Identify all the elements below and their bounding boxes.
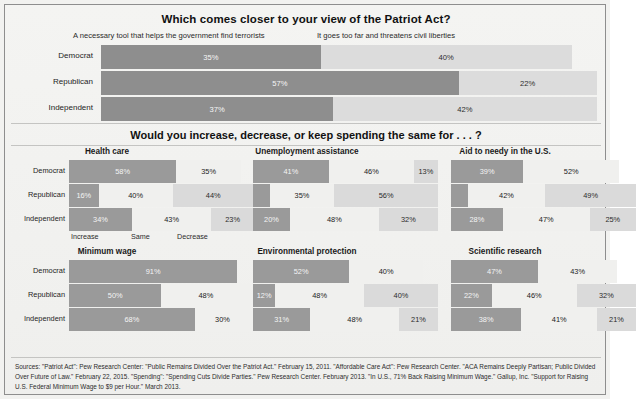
panel-bar-segment-increase: 39% xyxy=(451,160,523,183)
panel-row-label: Democrat xyxy=(9,166,65,175)
panel-bar-segment-increase: 16% xyxy=(69,184,99,207)
panel-row-bars: 22%46%32% xyxy=(451,284,585,307)
panel-bar-segment-increase: 28% xyxy=(451,208,503,231)
divider-bottom xyxy=(11,357,601,358)
top-chart-rows: Democrat35%40%Republican57%22%Independen… xyxy=(5,45,607,123)
panel-bar-segment-increase: 12% xyxy=(253,284,275,307)
panel-scientific-research: Scientific research47%43%22%46%32%38%41%… xyxy=(407,247,603,347)
panel-bar-segment-same: 47% xyxy=(503,208,590,231)
panel-bar-segment-increase xyxy=(253,184,270,207)
panel-rows: Democrat91%Republican50%48%Independent68… xyxy=(9,260,205,332)
panel-environmental-protection: Environmental protection52%40%12%48%40%3… xyxy=(209,247,405,347)
panel-row-independent: 28%47%25% xyxy=(407,208,603,231)
panel-rows: 41%46%13%35%56%20%48%32% xyxy=(209,160,405,232)
panel-rows: Democrat58%35%Republican16%40%44%Indepen… xyxy=(9,160,205,232)
panel-bar-segment-increase: 34% xyxy=(69,208,132,231)
top-row-label: Democrat xyxy=(5,51,93,60)
panel-bar-segment-increase: 38% xyxy=(451,308,521,331)
panel-unemployment-assistance: Unemployment assistance41%46%13%35%56%20… xyxy=(209,147,405,247)
top-chart-row: Independent37%42% xyxy=(5,97,607,121)
panel-row-bars: 47%43% xyxy=(451,260,585,283)
divider-top xyxy=(11,123,601,124)
panel-row-label: Independent xyxy=(9,214,65,223)
panel-row-republican: Republican16%40%44% xyxy=(9,184,205,207)
panel-row-republican: 12%48%40% xyxy=(209,284,405,307)
panel-row-bars: 52%40% xyxy=(253,260,387,283)
panel-row-independent: Independent34%43%23% xyxy=(9,208,205,231)
panel-bar-segment-increase: 41% xyxy=(253,160,329,183)
panel-bar-segment-same: 41% xyxy=(521,308,597,331)
panel-bar-segment-increase: 20% xyxy=(253,208,290,231)
panel-row-republican: 22%46%32% xyxy=(407,284,603,307)
panel-row-bars: 91% xyxy=(69,260,203,283)
panel-bar-segment-same: 46% xyxy=(329,160,414,183)
panel-row-democrat: 47%43% xyxy=(407,260,603,283)
panel-title: Unemployment assistance xyxy=(209,147,405,156)
panel-rows: 47%43%22%46%32%38%41%21% xyxy=(407,260,603,332)
panel-row-bars: 16%40%44% xyxy=(69,184,203,207)
panel-row: Health careDemocrat58%35%Republican16%40… xyxy=(5,147,607,247)
sources-note: Sources: "Patriot Act": Pew Research Cen… xyxy=(15,362,599,392)
panel-minimum-wage: Minimum wageDemocrat91%Republican50%48%I… xyxy=(9,247,205,347)
panel-bar-segment-decrease: 21% xyxy=(597,308,636,331)
panel-bar-segment-decrease: 32% xyxy=(577,284,636,307)
panel-bar-segment-increase: 52% xyxy=(253,260,349,283)
panel-rows: 39%52%42%49%28%47%25% xyxy=(407,160,603,232)
panel-bar-segment-same: 42% xyxy=(468,184,546,207)
panel-bar-segment-decrease: 25% xyxy=(590,208,636,231)
top-chart-row: Republican57%22% xyxy=(5,71,607,95)
panel-bar-segment-decrease: 49% xyxy=(545,184,636,207)
panel-row-republican: 35%56% xyxy=(209,184,405,207)
panel-row-bars: 20%48%32% xyxy=(253,208,387,231)
panel-aid-to-needy-in-the-u-s: Aid to needy in the U.S.39%52%42%49%28%4… xyxy=(407,147,603,247)
top-bar-segment-necessary-tool: 57% xyxy=(101,71,459,95)
panel-row-label: Republican xyxy=(9,290,65,299)
top-row-bars: 37%42% xyxy=(101,97,599,121)
top-bar-segment-goes-too-far: 22% xyxy=(459,71,597,95)
panel-bar-segment-same: 52% xyxy=(523,160,619,183)
panel-row-bars: 58%35% xyxy=(69,160,203,183)
panel-row-democrat: 39%52% xyxy=(407,160,603,183)
panel-axis-labels: IncreaseSameDecrease xyxy=(69,232,203,242)
panel-bar-segment-increase xyxy=(451,184,468,207)
top-bar-segment-necessary-tool: 37% xyxy=(101,97,333,121)
panel-bar-segment-same: 48% xyxy=(290,208,379,231)
panel-row-bars: 34%43%23% xyxy=(69,208,203,231)
panel-row-bars: 42%49% xyxy=(451,184,585,207)
panel-bar-segment-increase: 50% xyxy=(69,284,161,307)
panel-title: Health care xyxy=(9,147,205,156)
panel-health-care: Health careDemocrat58%35%Republican16%40… xyxy=(9,147,205,247)
axis-label-decrease: Decrease xyxy=(177,232,208,241)
top-row-bars: 57%22% xyxy=(101,71,599,95)
panel-row-bars: 31%48%21% xyxy=(253,308,387,331)
panel-bar-segment-same: 35% xyxy=(270,184,335,207)
panel-row-label: Democrat xyxy=(9,266,65,275)
panel-bar-segment-same: 43% xyxy=(538,260,618,283)
panel-bar-segment-same: 40% xyxy=(99,184,173,207)
panel-row-democrat: 41%46%13% xyxy=(209,160,405,183)
panel-row-label: Independent xyxy=(9,314,65,323)
panel-bar-segment-same: 48% xyxy=(275,284,364,307)
panel-row-bars: 39%52% xyxy=(451,160,585,183)
panel-row-bars: 12%48%40% xyxy=(253,284,387,307)
figure-frame: Which comes closer to your view of the P… xyxy=(4,4,606,395)
panel-rows: 52%40%12%48%40%31%48%21% xyxy=(209,260,405,332)
panel-title: Scientific research xyxy=(407,247,603,256)
top-bar-segment-necessary-tool: 35% xyxy=(101,45,321,69)
panel-row-bars: 50%48% xyxy=(69,284,203,307)
panel-title: Environmental protection xyxy=(209,247,405,256)
panel-bar-segment-increase: 22% xyxy=(451,284,492,307)
mid-chart-title: Would you increase, decrease, or keep sp… xyxy=(5,129,607,141)
panel-row-label: Republican xyxy=(9,190,65,199)
top-bar-segment-goes-too-far: 42% xyxy=(333,97,597,121)
top-chart-title: Which comes closer to your view of the P… xyxy=(5,13,607,25)
panel-bar-segment-same: 48% xyxy=(310,308,399,331)
panel-row-democrat: Democrat58%35% xyxy=(9,160,205,183)
axis-label-increase: Increase xyxy=(71,232,99,241)
top-legend-left: A necessary tool that helps the governme… xyxy=(73,31,265,40)
top-row-label: Independent xyxy=(5,103,93,112)
panel-row-independent: 38%41%21% xyxy=(407,308,603,331)
panel-row-independent: 31%48%21% xyxy=(209,308,405,331)
top-legend-right: It goes too far and threatens civil libe… xyxy=(317,31,455,40)
